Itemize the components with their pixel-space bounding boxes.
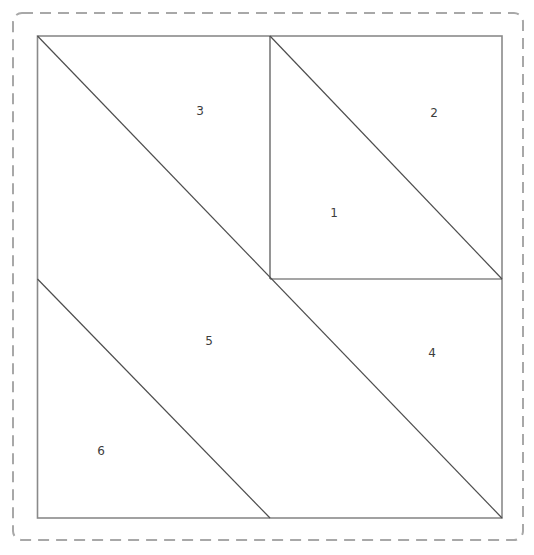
piece-label-2: 2 [430, 106, 438, 120]
piece-label-4: 4 [428, 346, 436, 360]
seam-line-upper-right-diagonal [270, 36, 502, 279]
piece-label-6: 6 [97, 444, 105, 458]
quilt-pattern-diagram: 123456 [0, 0, 534, 555]
seam-line-lower-left-diagonal [38, 279, 271, 518]
piece-label-5: 5 [205, 334, 213, 348]
quilt-pattern-canvas: 123456 [0, 0, 534, 555]
piece-label-3: 3 [196, 104, 204, 118]
piece-label-1: 1 [330, 206, 338, 220]
